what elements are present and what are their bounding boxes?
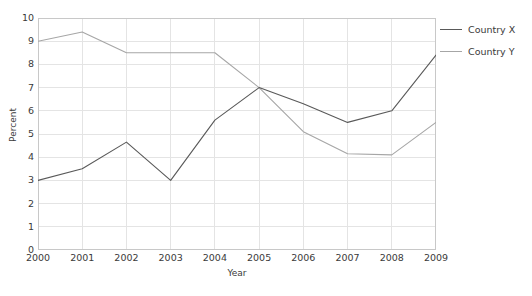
y-tick-label: 6 <box>6 106 34 116</box>
x-tick-label: 2009 <box>424 253 448 263</box>
x-tick-label: 2000 <box>26 253 50 263</box>
x-axis-title: Year <box>38 268 436 278</box>
x-axis-tick-labels: 2000200120022003200420052006200720082009 <box>38 253 436 269</box>
legend-item-label: Country Y <box>468 46 515 57</box>
y-tick-label: 5 <box>6 129 34 139</box>
y-tick-label: 4 <box>6 152 34 162</box>
x-tick-label: 2007 <box>335 253 359 263</box>
legend-item-country-x[interactable]: Country X <box>440 20 530 38</box>
x-axis-title-text: Year <box>227 268 246 278</box>
x-tick-label: 2006 <box>291 253 315 263</box>
y-tick-label: 7 <box>6 83 34 93</box>
legend-line-icon <box>440 29 462 30</box>
y-tick-label: 1 <box>6 222 34 232</box>
y-tick-label: 2 <box>6 199 34 209</box>
plot-svg <box>38 18 436 250</box>
x-tick-label: 2003 <box>159 253 183 263</box>
legend-item-country-y[interactable]: Country Y <box>440 42 530 60</box>
legend-item-label: Country X <box>468 24 515 35</box>
plot-area <box>38 18 436 250</box>
x-tick-label: 2001 <box>70 253 94 263</box>
line-chart: Percent 012345678910 2000200120022003200… <box>0 0 532 296</box>
y-tick-label: 9 <box>6 36 34 46</box>
x-tick-label: 2008 <box>380 253 404 263</box>
y-tick-label: 8 <box>6 60 34 70</box>
chart-legend: Country XCountry Y <box>440 20 530 64</box>
x-tick-label: 2005 <box>247 253 271 263</box>
x-tick-label: 2004 <box>203 253 227 263</box>
y-axis-tick-labels: 012345678910 <box>0 18 34 250</box>
y-tick-label: 3 <box>6 176 34 186</box>
legend-line-icon <box>440 51 462 52</box>
y-tick-label: 10 <box>6 13 34 23</box>
x-tick-label: 2002 <box>114 253 138 263</box>
